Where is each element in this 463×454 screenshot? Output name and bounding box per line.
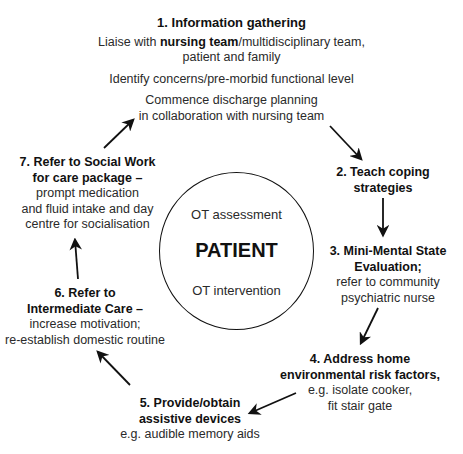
step-1-line-3: Identify concerns/pre-morbid functional …: [0, 72, 463, 88]
step-1-line-5: in collaboration with nursing team: [0, 109, 463, 125]
step-5-title-line-1: 5. Provide/obtain: [110, 396, 270, 412]
step-1-line-4: Commence discharge planning: [0, 93, 463, 109]
step-7-title-line-2: for care package –: [15, 171, 160, 187]
step-4-line-2: fit stair gate: [270, 399, 450, 415]
arrow-3-to-4: [361, 308, 378, 343]
step-3-line-1: refer to community: [318, 275, 458, 291]
step-1-line-1: Liaise with nursing team/multidisciplina…: [0, 35, 463, 51]
step-1-title: 1. Information gathering: [0, 15, 463, 31]
ot-assessment-label: OT assessment: [160, 207, 313, 222]
step-6-intermediate-care: 6. Refer to Intermediate Care – increase…: [5, 286, 165, 348]
patient-circle: OT assessment PATIENT OT intervention: [159, 172, 314, 330]
step-4-title-line-2: environmental risk factors,: [270, 368, 450, 384]
step-3-mini-mental-state: 3. Mini-Mental State Evaluation; refer t…: [318, 244, 458, 306]
step-3-title-line-2: Evaluation;: [318, 260, 458, 276]
step-2-title-line-1: 2. Teach coping: [318, 165, 448, 181]
step-5-line-1: e.g. audible memory aids: [110, 427, 270, 443]
step-4-title-line-1: 4. Address home: [270, 352, 450, 368]
ot-intervention-label: OT intervention: [160, 283, 313, 298]
step-7-social-work: 7. Refer to Social Work for care package…: [15, 155, 160, 233]
step-6-line-2: re-establish domestic routine: [5, 333, 165, 349]
step-1-information-gathering: 1. Information gathering Liaise with nur…: [0, 15, 463, 124]
step-7-line-3: centre for socialisation: [15, 217, 160, 233]
arrow-7-to-1: [104, 120, 133, 148]
step-5-assistive-devices: 5. Provide/obtain assistive devices e.g.…: [110, 396, 270, 443]
step-1-line-1-pre: Liaise with: [98, 35, 160, 49]
step-1-line-1-bold: nursing team: [160, 35, 239, 49]
step-1-line-1-post: /multidisciplinary team,: [238, 35, 364, 49]
step-3-title-line-1: 3. Mini-Mental State: [318, 244, 458, 260]
arrow-5-to-6: [98, 352, 130, 385]
step-4-line-1: e.g. isolate cooker,: [270, 383, 450, 399]
step-2-title-line-2: strategies: [318, 181, 448, 197]
step-7-line-2: and fluid intake and day: [15, 202, 160, 218]
step-5-title-line-2: assistive devices: [110, 412, 270, 428]
patient-label: PATIENT: [160, 239, 313, 262]
step-7-line-1: prompt medication: [15, 186, 160, 202]
step-4-home-risk-factors: 4. Address home environmental risk facto…: [270, 352, 450, 414]
step-3-line-2: psychiatric nurse: [318, 291, 458, 307]
step-1-line-2: patient and family: [0, 50, 463, 66]
arrow-6-to-7: [75, 240, 78, 279]
arrow-1-to-2: [330, 126, 361, 159]
step-6-title-line-2: Intermediate Care –: [5, 302, 165, 318]
step-6-line-1: increase motivation;: [5, 317, 165, 333]
step-7-title-line-1: 7. Refer to Social Work: [15, 155, 160, 171]
step-6-title-line-1: 6. Refer to: [5, 286, 165, 302]
step-2-teach-coping: 2. Teach coping strategies: [318, 165, 448, 196]
